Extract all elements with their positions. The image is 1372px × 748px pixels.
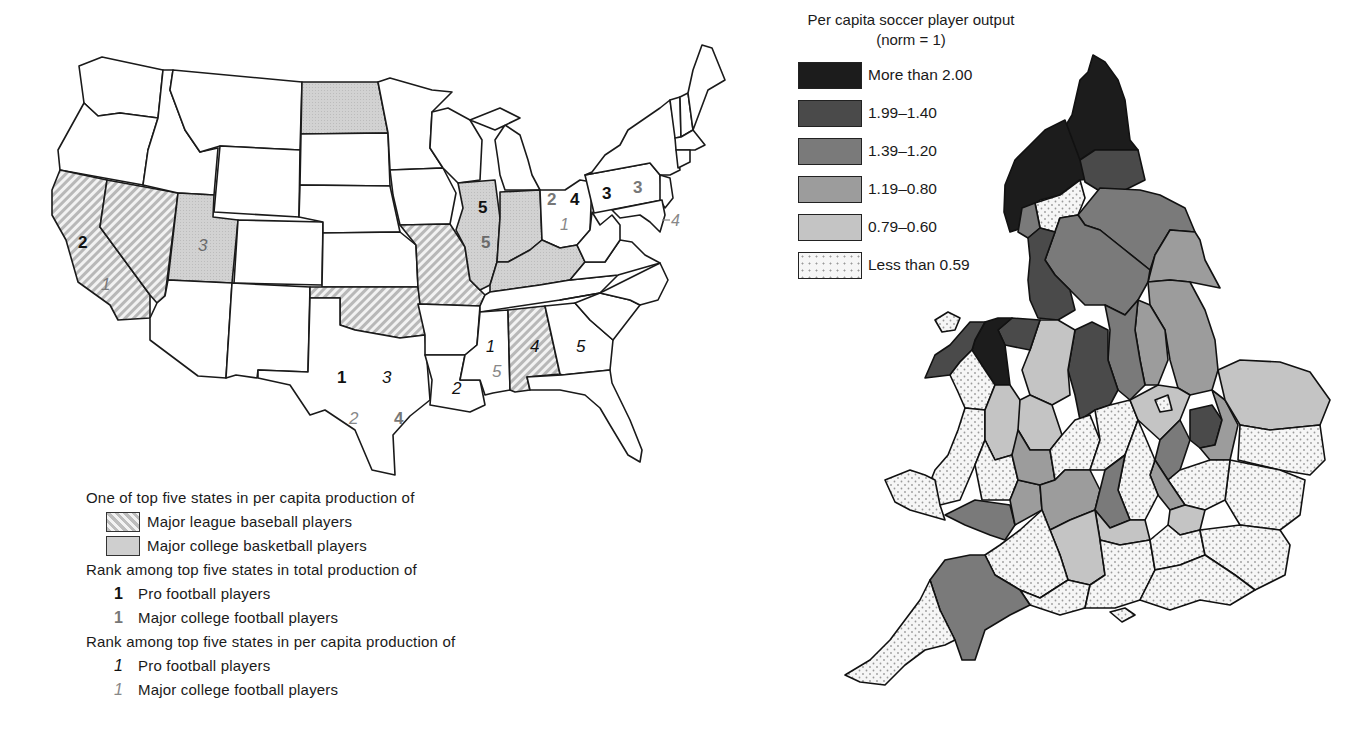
bold-black-rank-symbol: 1 (114, 582, 138, 606)
legend-label: 1.99–1.40 (868, 104, 937, 122)
label-texas-pc-college: 2 (348, 409, 359, 428)
legend-item-pc-college: 1 Major college football players (114, 678, 455, 702)
light-gray-swatch-icon (798, 214, 862, 241)
state-kansas (322, 232, 418, 287)
legend-item-1-99-1-40: 1.99–1.40 (798, 94, 1046, 132)
state-colorado (234, 220, 323, 285)
legend-label: 0.79–0.60 (868, 218, 937, 236)
label-georgia-pc-pro: 5 (576, 337, 586, 356)
us-map-legend: One of top five states in per capita pro… (86, 486, 455, 702)
label-texas-pc-pro: 3 (382, 368, 392, 387)
legend-items: More than 2.00 1.99–1.40 1.39–1.20 1.19–… (798, 56, 1046, 284)
label-mississippi-pc-college: 5 (492, 362, 502, 381)
legend-item-total-college: 1 Major college football players (114, 606, 455, 630)
state-maine (688, 45, 725, 130)
legend-total-heading: Rank among top five states in total prod… (86, 558, 455, 582)
state-washington (79, 57, 163, 118)
legend-title-line1: Per capita soccer player output (776, 10, 1046, 30)
state-north-dakota (301, 82, 388, 134)
hatch-swatch-icon (106, 512, 140, 532)
region-isle-of-wight (1110, 608, 1135, 622)
state-wyoming (214, 146, 300, 217)
legend-label: Major college football players (138, 678, 338, 702)
italic-gray-rank-symbol: 1 (114, 678, 138, 702)
mid-gray-swatch-icon (798, 138, 862, 165)
label-ohio-pc-college: 1 (560, 216, 569, 233)
dotted-swatch-icon (798, 252, 862, 279)
state-new-mexico (226, 283, 310, 378)
legend-per-capita-rank-heading: Rank among top five states in per capita… (86, 630, 455, 654)
legend-per-capita-heading: One of top five states in per capita pro… (86, 486, 455, 510)
legend-item-baseball: Major league baseball players (106, 510, 455, 534)
legend-item-basketball: Major college basketball players (106, 534, 455, 558)
legend-item-1-39-1-20: 1.39–1.20 (798, 132, 1046, 170)
state-new-york (585, 100, 680, 175)
gray-swatch-icon (798, 176, 862, 203)
us-sports-map: 2 1 3 5 5 2 4 1 3 3 4 1 3 2 4 2 1 5 4 5 (0, 0, 760, 480)
legend-label: 1.39–1.20 (868, 142, 937, 160)
legend-title: Per capita soccer player output (norm = … (776, 10, 1046, 50)
label-mississippi-pc-pro: 1 (486, 338, 495, 355)
legend-label: Major college basketball players (147, 534, 367, 558)
legend-label: Pro football players (138, 582, 270, 606)
legend-title-line2: (norm = 1) (776, 30, 1046, 50)
state-iowa (390, 168, 456, 225)
legend-label: 1.19–0.80 (868, 180, 937, 198)
label-pennsylvania-total-college: 3 (633, 178, 642, 197)
label-illinois-total-pro: 5 (478, 198, 487, 217)
legend-item-pc-pro: 1 Pro football players (114, 654, 455, 678)
italic-black-rank-symbol: 1 (114, 654, 138, 678)
legend-label: Major college football players (138, 606, 338, 630)
label-louisiana-pc-pro: 2 (451, 379, 462, 398)
region-glamorgan (945, 500, 1015, 540)
legend-item-less-than-0-59: Less than 0.59 (798, 246, 1046, 284)
label-alabama-pc-pro: 4 (530, 337, 539, 356)
state-florida (527, 370, 642, 462)
state-arkansas (418, 304, 480, 355)
legend-label: Pro football players (138, 654, 270, 678)
black-swatch-icon (798, 62, 862, 89)
region-anglesey (935, 312, 960, 332)
legend-label: Major league baseball players (147, 510, 352, 534)
dark-gray-swatch-icon (798, 100, 862, 127)
state-south-dakota (300, 133, 390, 186)
legend-label: Less than 0.59 (868, 256, 970, 274)
label-maryland-pc-college: 4 (671, 212, 680, 229)
legend-item-total-pro: 1 Pro football players (114, 582, 455, 606)
label-ohio-total-college: 2 (547, 190, 556, 209)
label-illinois-total-college: 5 (481, 233, 490, 252)
legend-item-more-than-2: More than 2.00 (798, 56, 1046, 94)
bold-gray-rank-symbol: 1 (114, 606, 138, 630)
label-california-total-pro: 2 (78, 233, 87, 252)
label-ohio-total-pro: 4 (570, 190, 580, 209)
stipple-swatch-icon (106, 536, 140, 556)
legend-item-1-19-0-80: 1.19–0.80 (798, 170, 1046, 208)
state-connecticut (676, 150, 690, 168)
label-pennsylvania-total-pro: 3 (602, 184, 611, 203)
label-utah-pc-college: 3 (198, 236, 208, 255)
legend-label: More than 2.00 (868, 66, 972, 84)
label-texas-total-college: 4 (394, 409, 404, 428)
label-california-pc-college: 1 (101, 275, 110, 294)
soccer-output-legend: Per capita soccer player output (norm = … (776, 10, 1046, 284)
label-texas-total-pro: 1 (337, 368, 346, 387)
legend-item-0-79-0-60: 0.79–0.60 (798, 208, 1046, 246)
